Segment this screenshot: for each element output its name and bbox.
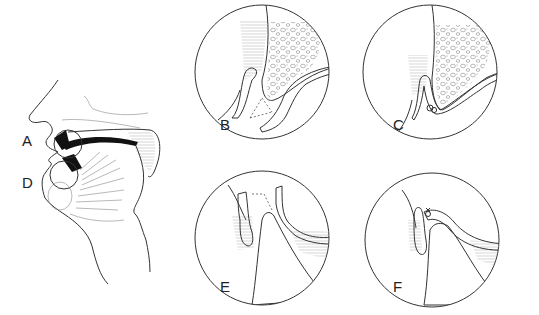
label-a: A xyxy=(22,133,32,148)
label-c: C xyxy=(393,117,404,132)
figure: A D B C E F xyxy=(0,0,539,315)
label-e: E xyxy=(220,279,230,294)
panel-f xyxy=(365,173,510,307)
panel-b xyxy=(195,5,348,139)
diagram-svg xyxy=(0,0,539,315)
panel-e xyxy=(195,171,348,305)
panel-c xyxy=(363,5,510,139)
label-f: F xyxy=(393,279,402,294)
profile-overview xyxy=(29,80,160,284)
label-b: B xyxy=(220,117,230,132)
label-d: D xyxy=(22,175,33,190)
